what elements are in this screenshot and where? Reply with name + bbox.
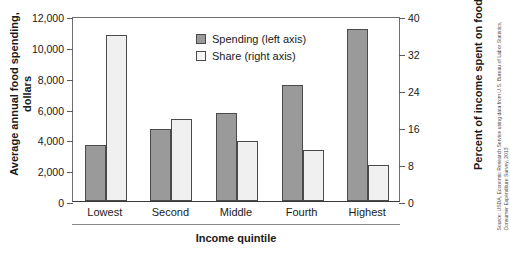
- bar-spending[interactable]: [150, 129, 171, 201]
- bar-share[interactable]: [368, 165, 389, 201]
- legend-item-spending: Spending (left axis): [196, 31, 306, 46]
- legend-swatch-spending-icon: [196, 34, 206, 44]
- x-category-label: Second: [138, 206, 204, 218]
- bar-spending[interactable]: [347, 29, 368, 201]
- chart-legend: Spending (left axis) Share (right axis): [196, 31, 306, 65]
- y-tick-left: [67, 49, 73, 50]
- left-axis-title: Average annual food spending, dollars: [8, 0, 34, 192]
- y-tick-right: [399, 203, 405, 204]
- legend-label-share: Share (right axis): [212, 50, 296, 62]
- bar-spending[interactable]: [85, 145, 106, 201]
- legend-swatch-share-icon: [196, 51, 206, 61]
- bar-spending[interactable]: [216, 113, 237, 201]
- y-tick-left: [67, 80, 73, 81]
- y-tick-label-right: 24: [408, 86, 420, 98]
- bar-spending[interactable]: [282, 85, 303, 201]
- x-axis-title: Income quintile: [72, 232, 400, 244]
- y-tick-left: [67, 18, 73, 19]
- y-tick-label-left: 10,000: [32, 43, 64, 55]
- bar-group: [347, 18, 389, 201]
- legend-item-share: Share (right axis): [196, 48, 306, 63]
- y-tick-label-right: 32: [408, 49, 420, 61]
- y-tick-label-left: 8,000: [38, 74, 64, 86]
- x-category-label: Middle: [203, 206, 269, 218]
- y-tick-right: [399, 166, 405, 167]
- y-tick-label-right: 16: [408, 123, 420, 135]
- bar-share[interactable]: [171, 119, 192, 201]
- y-tick-left: [67, 203, 73, 204]
- x-axis-rule: [72, 224, 400, 225]
- y-tick-label-left: 2,000: [38, 166, 64, 178]
- y-tick-label-right: 0: [408, 197, 414, 209]
- y-tick-left: [67, 141, 73, 142]
- y-tick-label-left: 0: [58, 197, 64, 209]
- bar-share[interactable]: [106, 35, 127, 202]
- y-tick-label-right: 8: [408, 160, 414, 172]
- bar-group: [150, 18, 192, 201]
- y-tick-label-left: 12,000: [32, 12, 64, 24]
- right-axis-title: Percent of income spent on food: [472, 0, 485, 183]
- y-tick-right: [399, 92, 405, 93]
- left-axis-title-line2: dollars: [21, 76, 33, 112]
- legend-label-spending: Spending (left axis): [212, 33, 306, 45]
- y-tick-label-left: 4,000: [38, 135, 64, 147]
- y-tick-left: [67, 172, 73, 173]
- y-tick-label-left: 6,000: [38, 105, 64, 117]
- x-category-label: Fourth: [269, 206, 335, 218]
- bar-share[interactable]: [237, 141, 258, 201]
- y-tick-right: [399, 18, 405, 19]
- x-category-label: Highest: [334, 206, 400, 218]
- y-tick-label-right: 40: [408, 12, 420, 24]
- bar-group: [85, 18, 127, 201]
- y-tick-right: [399, 129, 405, 130]
- left-axis-title-line1: Average annual food spending,: [8, 12, 20, 175]
- y-tick-right: [399, 55, 405, 56]
- source-note: Source: USDA, Economic Research Service …: [496, 16, 510, 231]
- bar-share[interactable]: [303, 150, 324, 201]
- x-category-label: Lowest: [72, 206, 138, 218]
- y-tick-left: [67, 111, 73, 112]
